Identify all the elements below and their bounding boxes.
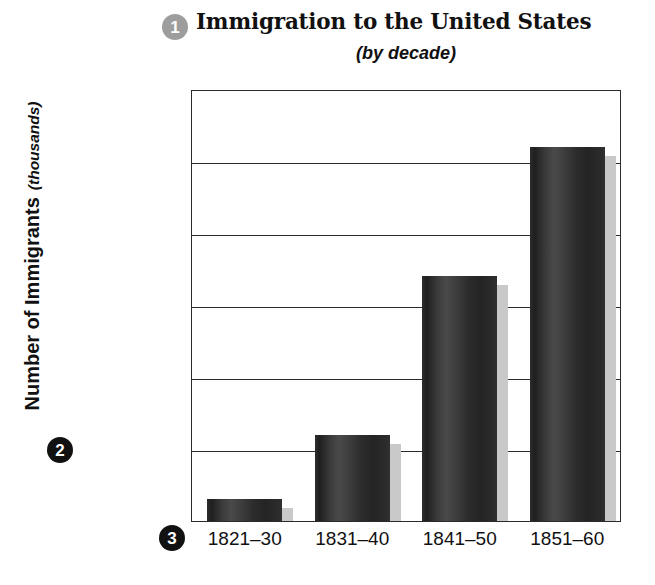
callout-badge-1: 1 xyxy=(162,14,188,40)
bar-shadow xyxy=(497,285,508,521)
x-axis-tick-label: 1841–50 xyxy=(406,528,514,550)
bar-shadow xyxy=(390,444,401,521)
bar xyxy=(530,147,605,521)
x-axis-tick-label: 1851–60 xyxy=(514,528,622,550)
callout-badge-2: 2 xyxy=(47,437,73,463)
y-axis-title: Number of Immigrants xyxy=(21,197,44,410)
x-axis-tick-label: 1821–30 xyxy=(191,528,299,550)
bar-shadow xyxy=(605,156,616,521)
chart-title: Immigration to the United States xyxy=(196,9,626,34)
callout-badge-1-label: 1 xyxy=(170,19,179,36)
y-axis-unit-label: (thousands) xyxy=(25,101,43,190)
callout-badge-3: 3 xyxy=(159,525,185,551)
x-axis-tick-label: 1831–40 xyxy=(299,528,407,550)
callout-badge-3-label: 3 xyxy=(167,530,176,547)
plot-area xyxy=(191,90,621,522)
bar-shadow xyxy=(282,508,293,521)
bar xyxy=(422,276,497,521)
chart-subtitle: (by decade) xyxy=(196,43,616,64)
bar xyxy=(207,499,282,521)
bar xyxy=(315,435,390,521)
callout-badge-2-label: 2 xyxy=(55,442,64,459)
y-axis-title-group: Number of Immigrants (thousands) xyxy=(21,111,61,401)
